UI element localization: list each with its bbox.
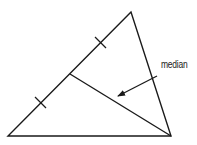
triangle-diagram xyxy=(0,0,197,145)
median-line xyxy=(70,74,171,136)
arrow-icon xyxy=(118,76,157,96)
diagram-canvas: median xyxy=(0,0,197,145)
triangle xyxy=(8,12,171,136)
median-label: median xyxy=(161,59,187,70)
